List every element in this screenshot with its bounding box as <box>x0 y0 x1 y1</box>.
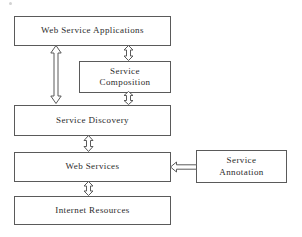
box-label: Service Annotation <box>217 155 266 178</box>
image-speck <box>9 2 12 5</box>
arrow-applications-to-discovery-icon <box>48 45 64 104</box>
box-label: Internet Resources <box>53 205 131 216</box>
box-internet-resources[interactable]: Internet Resources <box>14 196 171 225</box>
box-label: Service Discovery <box>54 115 131 126</box>
box-web-service-applications[interactable]: Web Service Applications <box>14 16 171 46</box>
box-label: Web Services <box>64 161 122 172</box>
box-service-composition[interactable]: Service Composition <box>79 61 171 93</box>
box-label: Web Service Applications <box>39 25 146 36</box>
box-web-services[interactable]: Web Services <box>14 152 171 182</box>
diagram-canvas: Web Service Applications Service Composi… <box>0 0 302 237</box>
arrow-discovery-to-services-icon <box>82 135 95 152</box>
arrow-services-to-internet-icon <box>82 181 95 196</box>
box-service-annotation[interactable]: Service Annotation <box>196 150 287 183</box>
arrow-composition-to-discovery-icon <box>122 91 135 105</box>
arrow-applications-to-composition-icon <box>122 45 135 61</box>
arrow-annotation-to-services-icon <box>170 161 197 173</box>
box-service-discovery[interactable]: Service Discovery <box>14 105 171 136</box>
box-label: Service Composition <box>98 66 153 89</box>
